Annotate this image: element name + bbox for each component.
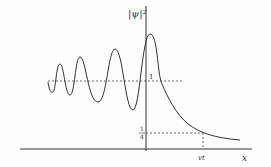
probability-density-curve: [48, 34, 240, 140]
level-quarter-numerator: 1: [140, 125, 144, 132]
x-axis-label: x: [242, 153, 247, 163]
diagram-svg: |ψ|² x 1 1 4 vt: [0, 0, 271, 167]
vt-label: vt: [198, 154, 205, 162]
wavefunction-diagram: |ψ|² x 1 1 4 vt: [0, 0, 271, 167]
level-one-label: 1: [149, 73, 153, 81]
level-quarter-denominator: 4: [140, 133, 144, 140]
y-axis-label: |ψ|²: [128, 8, 147, 20]
